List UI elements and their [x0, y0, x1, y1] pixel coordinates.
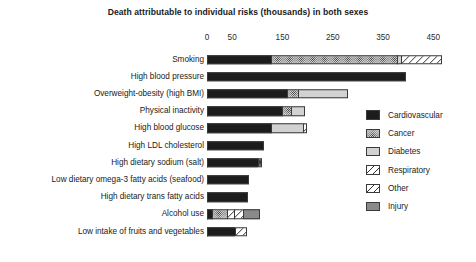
stacked-bar-high-blood-pressure[interactable]: [207, 72, 406, 82]
x-tick-label-250: 250: [326, 33, 340, 42]
legend-item-cancer[interactable]: Cancer: [366, 124, 476, 142]
legend-item-diabetes[interactable]: Diabetes: [366, 143, 476, 161]
bar-segment-cardiovascular[interactable]: [207, 55, 271, 65]
legend-label: Other: [388, 184, 408, 193]
stacked-bar-low-intake-of-fruits-and-vegetables[interactable]: [207, 227, 247, 237]
legend-label: Injury: [388, 202, 408, 211]
legend-item-injury[interactable]: Injury: [366, 197, 476, 215]
legend-swatch-diabetes-icon: [366, 147, 380, 157]
chart-row: Smoking: [0, 51, 476, 68]
legend-label: Respiratory: [388, 166, 430, 175]
legend-swatch-respiratory-icon: [366, 165, 380, 175]
legend-label: Cardiovascular: [388, 111, 443, 120]
bar-segment-cancer[interactable]: [282, 106, 291, 116]
x-tick-label-350: 350: [376, 33, 390, 42]
legend-swatch-cardiovascular-icon: [366, 110, 380, 120]
bar-segment-cardiovascular[interactable]: [207, 192, 248, 202]
stacked-bar-high-dietary-sodium-salt[interactable]: [207, 158, 262, 168]
stacked-bar-smoking[interactable]: [207, 55, 442, 65]
chart-row: High blood pressure: [0, 68, 476, 85]
bar-segment-cancer[interactable]: [258, 158, 262, 168]
x-tick-label-150: 150: [276, 33, 290, 42]
x-tick-label-450: 450: [427, 33, 441, 42]
stacked-bar-low-dietary-omega-3-fatty-acids-seafood[interactable]: [207, 175, 249, 185]
legend-swatch-cancer-icon: [366, 129, 380, 139]
bar-segment-cardiovascular[interactable]: [207, 175, 249, 185]
stacked-bar-overweight-obesity-high-bmi[interactable]: [207, 89, 348, 99]
category-label-high-ldl-cholesterol: High LDL cholesterol: [128, 141, 204, 149]
chart-title: Death attributable to individual risks (…: [0, 7, 476, 17]
bar-segment-diabetes[interactable]: [271, 124, 302, 134]
bar-segment-respiratory[interactable]: [303, 124, 307, 134]
legend-swatch-injury-icon: [366, 202, 380, 212]
bar-segment-cancer[interactable]: [212, 210, 227, 220]
category-label-high-blood-glucose: High blood glucose: [134, 124, 204, 132]
bar-segment-respiratory[interactable]: [227, 210, 234, 220]
chart-legend: CardiovascularCancerDiabetesRespiratoryO…: [366, 106, 476, 216]
chart-container: Death attributable to individual risks (…: [0, 0, 476, 262]
bar-segment-cancer[interactable]: [271, 55, 397, 65]
stacked-bar-high-dietary-trans-fatty-acids[interactable]: [207, 192, 248, 202]
x-tick-label-50: 50: [228, 33, 237, 42]
category-label-low-dietary-omega-3-fatty-acids-seafood: Low dietary omega-3 fatty acids (seafood…: [52, 176, 204, 184]
category-label-overweight-obesity-high-bmi: Overweight-obesity (high BMI): [94, 90, 204, 98]
category-label-physical-inactivity: Physical inactivity: [140, 107, 204, 115]
chart-row: Low intake of fruits and vegetables: [0, 223, 476, 240]
stacked-bar-high-blood-glucose[interactable]: [207, 124, 307, 134]
bar-segment-cardiovascular[interactable]: [207, 124, 271, 134]
stacked-bar-high-ldl-cholesterol[interactable]: [207, 141, 264, 151]
stacked-bar-physical-inactivity[interactable]: [207, 106, 305, 116]
bar-segment-diabetes[interactable]: [291, 106, 305, 116]
bar-segment-cardiovascular[interactable]: [207, 89, 287, 99]
category-label-low-intake-of-fruits-and-vegetables: Low intake of fruits and vegetables: [78, 227, 204, 235]
stacked-bar-alcohol-use[interactable]: [207, 210, 260, 220]
bar-segment-respiratory[interactable]: [235, 227, 248, 237]
legend-item-other[interactable]: Other: [366, 179, 476, 197]
bar-segment-cancer[interactable]: [287, 89, 297, 99]
legend-label: Cancer: [388, 129, 414, 138]
x-axis: 050150250350450: [0, 33, 476, 45]
bar-segment-diabetes[interactable]: [298, 89, 348, 99]
legend-swatch-other-icon: [366, 184, 380, 194]
bar-segment-cardiovascular[interactable]: [207, 141, 264, 151]
legend-item-cardiovascular[interactable]: Cardiovascular: [366, 106, 476, 124]
bar-segment-other[interactable]: [234, 210, 243, 220]
legend-item-respiratory[interactable]: Respiratory: [366, 161, 476, 179]
bar-segment-injury[interactable]: [243, 210, 260, 220]
bar-segment-cardiovascular[interactable]: [207, 227, 235, 237]
category-label-high-dietary-trans-fatty-acids: High dietary trans fatty acids: [101, 193, 204, 201]
category-label-smoking: Smoking: [172, 55, 204, 63]
x-tick-label-0: 0: [205, 33, 210, 42]
bar-segment-cardiovascular[interactable]: [207, 106, 282, 116]
bar-segment-cardiovascular[interactable]: [207, 158, 258, 168]
category-label-high-dietary-sodium-salt: High dietary sodium (salt): [111, 159, 204, 167]
legend-label: Diabetes: [388, 147, 420, 156]
bar-segment-respiratory[interactable]: [401, 55, 442, 65]
category-label-high-blood-pressure: High blood pressure: [131, 73, 204, 81]
chart-row: Overweight-obesity (high BMI): [0, 85, 476, 102]
bar-segment-cardiovascular[interactable]: [207, 72, 406, 82]
category-label-alcohol-use: Alcohol use: [162, 210, 204, 218]
